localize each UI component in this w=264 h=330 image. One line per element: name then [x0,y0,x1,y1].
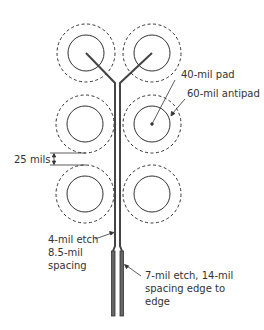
pad-r3c2 [134,176,170,212]
wide-etch-label-3: edge [145,296,170,307]
pad-label: 40-mil pad [181,69,235,80]
narrow-etch-label-1: 4-mil etch [48,234,98,245]
wide-etch-label-2: spacing edge to [145,283,225,294]
narrow-etch-label-2: 8.5-mil [48,247,83,258]
antipad-r2c1 [56,95,114,153]
wide-traces [112,251,124,316]
antipad-label: 60-mil antipad [187,88,260,99]
wide-trace-right [120,251,124,316]
via-breakout-diagram: 25 mils 40-mil pad 60-mil antipad 4-mil … [0,0,264,330]
narrow-etch-label-3: spacing [48,260,87,271]
gap-label: 25 mils [14,154,50,165]
callout-lines [95,80,185,276]
gap-dimension [50,153,86,165]
antipads [56,24,181,223]
pad-r2c1 [67,106,103,142]
pad-r3c1 [67,176,103,212]
antipad-r3c1 [56,165,114,223]
wide-etch-label-1: 7-mil etch, 14-mil [145,270,233,281]
antipad-r3c2 [123,165,181,223]
pads [67,35,170,212]
trace-right [120,53,152,251]
wide-trace-left [112,251,116,316]
